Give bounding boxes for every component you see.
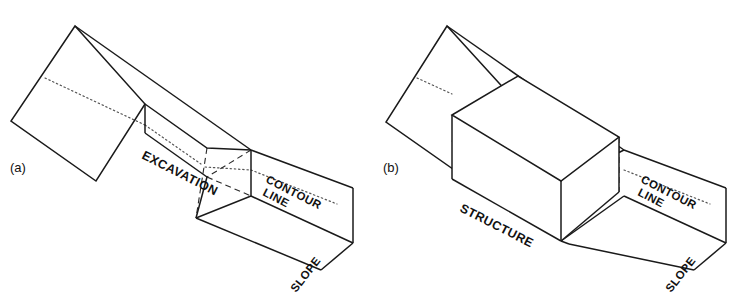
slope-excavation-structure-figure: (a) EXCAVATION CONTOUR LINE SLOPE [0,0,752,307]
panel-a-terrace-top-face [11,26,145,181]
panel-a-annotation-excavation: EXCAVATION [140,148,220,198]
panel-b-cut-toe-join [561,241,569,244]
panel-a-drawing: (a) EXCAVATION CONTOUR LINE SLOPE [0,0,752,307]
panel-a-label: (a) [10,160,26,175]
panel-a-contour-segment-notch-floor [205,167,251,170]
panel-b-label: (b) [383,160,399,175]
panel-a-hidden-edge-back-floor [207,150,251,177]
